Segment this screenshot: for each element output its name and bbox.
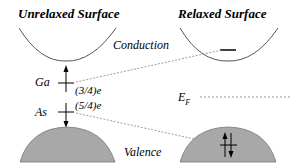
unrelaxed-surface-title: Unrelaxed Surface xyxy=(18,6,120,21)
ga-to-relaxed-dotted-line xyxy=(76,50,222,82)
ga-arrow-up-icon xyxy=(64,65,69,72)
as-label: As xyxy=(34,105,47,119)
band-diagram: Unrelaxed Surface Relaxed Surface Conduc… xyxy=(0,0,303,168)
valence-label: Valence xyxy=(124,145,162,159)
ga-charge: (3/4)e xyxy=(75,84,101,97)
unrelaxed-valence-band xyxy=(20,127,115,162)
ga-label: Ga xyxy=(35,75,50,89)
as-charge: (5/4)e xyxy=(75,99,101,112)
relaxed-surface-title: Relaxed Surface xyxy=(177,6,267,21)
relaxed-conduction-band xyxy=(180,28,278,61)
unrelaxed-conduction-band xyxy=(19,28,116,61)
conduction-label: Conduction xyxy=(113,38,169,52)
fermi-level-label: EF xyxy=(177,90,190,107)
